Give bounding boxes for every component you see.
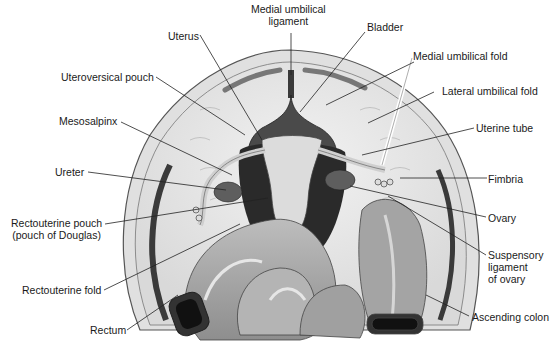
label-ascending-colon: Ascending colon [472,311,549,323]
label-ovary: Ovary [488,212,516,224]
label-lateral-umbilical-fold: Lateral umbilical fold [442,85,538,97]
ovary-left [214,182,242,202]
label-uterus: Uterus [168,30,199,42]
label-ureter: Ureter [55,166,84,178]
label-bladder: Bladder [367,21,403,33]
label-rectum: Rectum [90,324,126,336]
ascending-colon-shape [359,199,427,334]
label-medial-umbilical-fold: Medial umbilical fold [413,50,508,62]
label-fimbria: Fimbria [488,173,523,185]
label-uterine-tube: Uterine tube [476,122,533,134]
label-rectouterine-pouch: Rectouterine pouch (pouch of Douglas) [11,217,102,241]
ovary-right [325,170,355,190]
label-rectouterine-fold: Rectouterine fold [22,284,101,296]
label-uteroversical-pouch: Uteroversical pouch [61,71,154,83]
label-suspensory-ligament: Suspensory ligament of ovary [488,249,543,285]
label-medial-umbilical-ligament: Medial umbilical ligament [251,3,326,27]
label-mesosalpinx: Mesosalpinx [59,115,117,127]
